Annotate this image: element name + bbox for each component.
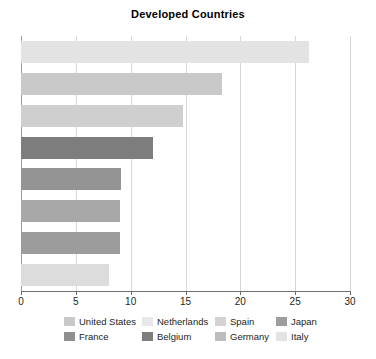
- legend-label: Spain: [230, 316, 254, 327]
- x-axis-tick: [350, 291, 351, 295]
- bar-germany: [21, 232, 120, 254]
- chart-title: Developed Countries: [0, 8, 376, 20]
- legend-item-spain[interactable]: Spain: [215, 314, 276, 329]
- legend-item-netherlands[interactable]: Netherlands: [142, 314, 215, 329]
- gridline: [350, 36, 351, 291]
- legend-swatch-icon: [142, 317, 153, 326]
- legend-swatch-icon: [215, 332, 226, 341]
- x-axis-tick-label: 20: [235, 296, 246, 307]
- legend-swatch-icon: [64, 317, 75, 326]
- legend-item-italy[interactable]: Italy: [276, 329, 320, 344]
- bar-row: [21, 105, 350, 127]
- legend-item-united-states[interactable]: United States: [64, 314, 142, 329]
- bar-row: [21, 264, 350, 286]
- legend-label: Netherlands: [157, 316, 208, 327]
- chart-legend: United StatesNetherlandsSpainJapan Franc…: [64, 314, 320, 344]
- x-axis-tick-labels: 051015202530: [0, 296, 376, 310]
- bar-row: [21, 232, 350, 254]
- legend-swatch-icon: [276, 317, 287, 326]
- legend-label: Germany: [230, 331, 269, 342]
- x-axis-tick: [295, 291, 296, 295]
- legend-label: Italy: [291, 331, 308, 342]
- legend-item-germany[interactable]: Germany: [215, 329, 276, 344]
- bars-layer: [21, 36, 350, 291]
- legend-label: United States: [79, 316, 136, 327]
- plot-area: [21, 36, 350, 291]
- legend-label: France: [79, 331, 109, 342]
- x-axis-tick-label: 30: [344, 296, 355, 307]
- legend-item-japan[interactable]: Japan: [276, 314, 320, 329]
- x-axis-tick: [76, 291, 77, 295]
- legend-label: Japan: [291, 316, 317, 327]
- bar-row: [21, 41, 350, 63]
- legend-item-france[interactable]: France: [64, 329, 142, 344]
- bar-chart-figure: Developed Countries 051015202530 United …: [0, 0, 376, 359]
- x-axis-tick-marks: [21, 291, 351, 295]
- bar-belgium: [21, 200, 120, 222]
- legend-swatch-icon: [215, 317, 226, 326]
- bar-france: [21, 168, 121, 190]
- bar-japan: [21, 137, 153, 159]
- bar-row: [21, 200, 350, 222]
- bar-row: [21, 137, 350, 159]
- x-axis-tick: [240, 291, 241, 295]
- x-axis-tick: [186, 291, 187, 295]
- legend-item-belgium[interactable]: Belgium: [142, 329, 215, 344]
- legend-row: United StatesNetherlandsSpainJapan: [64, 314, 320, 329]
- x-axis-tick-label: 5: [73, 296, 79, 307]
- legend-swatch-icon: [276, 332, 287, 341]
- legend-label: Belgium: [157, 331, 191, 342]
- x-axis-tick-label: 15: [180, 296, 191, 307]
- bar-netherlands: [21, 73, 222, 95]
- x-axis-tick: [131, 291, 132, 295]
- x-axis-tick-label: 0: [18, 296, 24, 307]
- x-axis-tick-label: 25: [290, 296, 301, 307]
- bar-united-states: [21, 41, 309, 63]
- bar-spain: [21, 105, 183, 127]
- legend-swatch-icon: [64, 332, 75, 341]
- legend-swatch-icon: [142, 332, 153, 341]
- x-axis-tick: [21, 291, 22, 295]
- bar-italy: [21, 264, 109, 286]
- bar-row: [21, 73, 350, 95]
- legend-row: FranceBelgiumGermanyItaly: [64, 329, 320, 344]
- x-axis-tick-label: 10: [125, 296, 136, 307]
- bar-row: [21, 168, 350, 190]
